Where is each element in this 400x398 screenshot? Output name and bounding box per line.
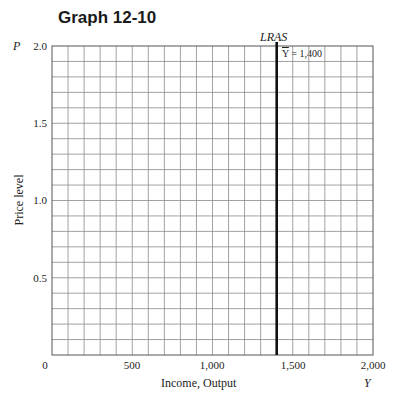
grid-lines [52,46,373,355]
plot-area [0,0,400,398]
